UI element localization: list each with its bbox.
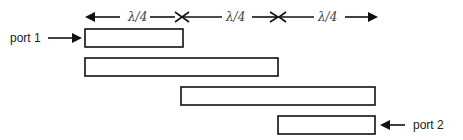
line-section-4 bbox=[278, 116, 375, 134]
coupled-line-diagram: λ/4 λ/4 λ/4 port 1 port 2 bbox=[0, 0, 463, 140]
dimension-label-3: λ/4 bbox=[317, 10, 337, 24]
dimension-label-2: λ/4 bbox=[225, 10, 245, 24]
line-section-3 bbox=[181, 87, 375, 105]
port-1-arrow-icon bbox=[48, 33, 82, 43]
port-2-label: port 2 bbox=[413, 118, 444, 132]
port-2-arrow-icon bbox=[380, 120, 405, 130]
dimension-label-1: λ/4 bbox=[127, 10, 147, 24]
line-section-2 bbox=[85, 58, 278, 76]
port-1-label: port 1 bbox=[10, 31, 41, 45]
line-section-1 bbox=[85, 29, 183, 47]
